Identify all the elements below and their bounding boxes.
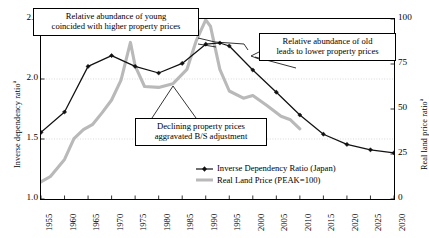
y-axis-right-title-superscript: a: [418, 99, 424, 101]
y-axis-left-title-superscript: a: [11, 81, 17, 83]
x-axis-tick-label: 2020: [350, 214, 360, 231]
legend-item-real-land-price: Real Land Price (PEAK=100): [196, 175, 336, 187]
y-axis-left-title: Inverse dependency ratioa: [11, 81, 22, 168]
y-axis-right-title: Real land price ratioa: [418, 99, 429, 170]
annotation-young: Relative abundance of young coincided wi…: [33, 8, 199, 36]
x-axis-tick-label: 1980: [162, 214, 172, 231]
y-axis-right-title-text: Real land price ratio: [420, 101, 429, 170]
x-axis-tick-label: 1965: [91, 214, 101, 231]
y-axis-right-tick-label: 75: [398, 57, 407, 67]
y-axis-left-tick-label: 2.0: [27, 72, 38, 82]
annotation-decline-line-1: Declining property prices: [140, 121, 262, 131]
legend-swatch-thick-line-icon: [196, 175, 213, 185]
annotation-old: Relative abundance of old leads to lower…: [259, 33, 396, 61]
legend-label-1: Inverse Dependency Ratio (Japan): [217, 163, 336, 175]
x-axis-tick-label: 2000: [256, 214, 266, 231]
x-axis-tick-label: 1975: [138, 214, 148, 231]
x-axis-tick-label: 2005: [279, 214, 289, 231]
x-axis-tick-label: 1995: [232, 214, 242, 231]
x-tick-marks: [41, 196, 394, 200]
y-axis-left-tick-label: 1.5: [27, 132, 38, 142]
y-axis-right-tick-label: 25: [398, 147, 407, 157]
x-axis-tick-label: 1990: [209, 214, 219, 231]
x-axis-tick-label: 2030: [397, 214, 407, 231]
annotation-old-line-1: Relative abundance of old: [264, 36, 391, 46]
y-axis-left-tick-label: 1.0: [27, 192, 38, 202]
x-axis-tick-label: 2015: [326, 214, 336, 231]
annotation-young-line-2: coincided with higher property prices: [38, 21, 194, 31]
legend-swatch-line-marker-icon: [196, 164, 213, 174]
y-axis-left-title-text: Inverse dependency ratio: [13, 83, 22, 168]
x-axis-tick-label: 1970: [115, 214, 125, 231]
y-axis-right-tick-label: 0: [398, 192, 403, 202]
legend-label-2: Real Land Price (PEAK=100): [217, 175, 320, 187]
x-axis-tick-label: 1985: [185, 214, 195, 231]
annotation-old-line-2: leads to lower property prices: [264, 46, 391, 56]
y-axis-right-tick-label: 50: [398, 102, 407, 112]
x-axis-tick-label: 2010: [303, 214, 313, 231]
legend-item-inverse-dependency-ratio: Inverse Dependency Ratio (Japan): [196, 163, 336, 175]
x-axis-tick-label: 1955: [44, 214, 54, 231]
annotation-decline: Declining property prices aggravated B/S…: [135, 118, 267, 146]
x-axis-tick-label: 1960: [68, 214, 78, 231]
annotation-decline-line-2: aggravated B/S adjustment: [140, 131, 262, 141]
x-axis-tick-label: 2025: [373, 214, 383, 231]
annotation-young-line-1: Relative abundance of young: [38, 11, 194, 21]
y-axis-right-tick-label: 100: [398, 12, 412, 22]
chart-legend: Inverse Dependency Ratio (Japan) Real La…: [196, 163, 336, 186]
